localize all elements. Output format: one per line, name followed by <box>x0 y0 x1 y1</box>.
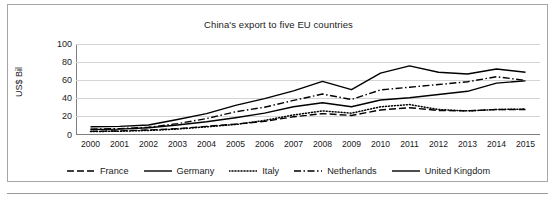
solid-line-swatch <box>144 167 172 175</box>
x-tick-label-2009: 2009 <box>337 139 366 153</box>
legend-label: Germany <box>177 166 215 176</box>
legend-label: Italy <box>262 166 279 176</box>
y-tick-label-80: 80 <box>48 58 72 67</box>
y-tick-label-40: 40 <box>48 94 72 103</box>
chart-title: China's export to five EU countries <box>8 19 549 30</box>
legend-label: Netherlands <box>327 166 377 176</box>
x-tick-label-2008: 2008 <box>308 139 337 153</box>
y-tick-label-20: 20 <box>48 112 72 121</box>
x-axis-tick-labels: 2000200120022003200420052006200720082009… <box>76 139 540 153</box>
chart-legend: FranceGermanyItalyNetherlandsUnited King… <box>22 163 535 179</box>
x-tick-label-2015: 2015 <box>511 139 540 153</box>
legend-label: France <box>100 166 129 176</box>
x-tick-label-2011: 2011 <box>395 139 424 153</box>
plot-wrapper <box>76 44 540 135</box>
legend-item-germany[interactable]: Germany <box>144 166 215 176</box>
x-tick-label-2004: 2004 <box>192 139 221 153</box>
x-tick-label-2014: 2014 <box>482 139 511 153</box>
dashed-line-swatch <box>67 167 95 175</box>
x-tick-label-2000: 2000 <box>76 139 105 153</box>
x-tick-label-2003: 2003 <box>163 139 192 153</box>
y-axis-title: US$ Bil <box>14 52 24 112</box>
x-tick-label-2010: 2010 <box>366 139 395 153</box>
x-tick-label-2012: 2012 <box>424 139 453 153</box>
x-tick-label-2006: 2006 <box>250 139 279 153</box>
y-tick-label-0: 0 <box>48 131 72 140</box>
series-line-netherlands <box>91 77 526 129</box>
legend-item-france[interactable]: France <box>67 166 129 176</box>
dash-dot-line-swatch <box>294 167 322 175</box>
y-tick-label-100: 100 <box>48 40 72 49</box>
dotted-line-swatch <box>229 167 257 175</box>
y-axis-tick-labels: 020406080100 <box>44 44 72 135</box>
chart-figure-frame: China's export to five EU countries US$ … <box>7 4 548 182</box>
y-tick-label-60: 60 <box>48 76 72 85</box>
series-line-germany <box>91 66 526 127</box>
chart-lines-svg <box>76 44 540 135</box>
legend-label: United Kingdom <box>425 166 490 176</box>
solid-line-swatch <box>392 167 420 175</box>
legend-item-netherlands[interactable]: Netherlands <box>294 166 377 176</box>
x-tick-label-2013: 2013 <box>453 139 482 153</box>
series-line-united-kingdom <box>91 81 526 130</box>
bottom-divider-rule <box>7 193 548 194</box>
x-tick-label-2001: 2001 <box>105 139 134 153</box>
legend-item-italy[interactable]: Italy <box>229 166 279 176</box>
x-tick-label-2005: 2005 <box>221 139 250 153</box>
legend-item-united-kingdom[interactable]: United Kingdom <box>392 166 490 176</box>
x-tick-label-2007: 2007 <box>279 139 308 153</box>
x-tick-label-2002: 2002 <box>134 139 163 153</box>
